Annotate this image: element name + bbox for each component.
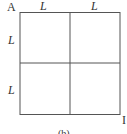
label-left-lower-segment: L: [8, 84, 15, 96]
label-corner-a: A: [7, 1, 16, 13]
label-left-upper-segment: L: [8, 34, 15, 46]
label-top-right-segment: L: [91, 0, 98, 12]
grid-square-diagram: [0, 0, 127, 134]
label-corner-i: I: [122, 114, 126, 126]
label-top-left-segment: L: [40, 0, 47, 12]
figure-caption: (b): [58, 128, 70, 134]
